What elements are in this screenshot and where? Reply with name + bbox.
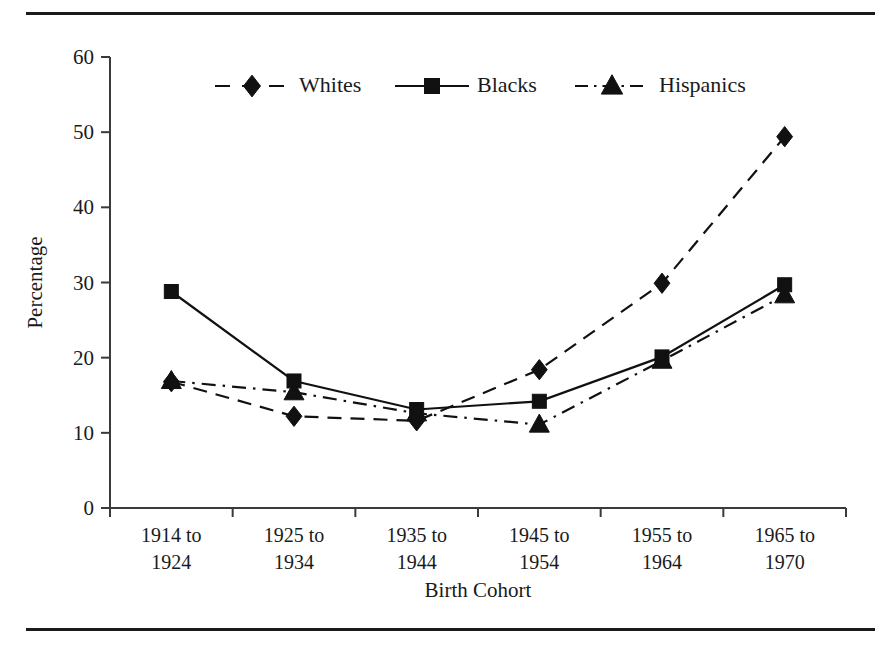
legend-item-whites[interactable]: Whites <box>215 72 361 97</box>
series-line-whites <box>171 137 784 421</box>
data-point-marker <box>161 370 181 388</box>
legend-label-whites: Whites <box>299 72 361 97</box>
legend-marker-diamond-icon <box>244 75 261 97</box>
x-tick-label: 1914 to1924 <box>141 524 202 573</box>
x-axis-title: Birth Cohort <box>425 578 532 602</box>
legend-item-hispanics[interactable]: Hispanics <box>575 72 746 97</box>
series-hispanics <box>161 285 794 432</box>
figure-container: 0102030405060 1914 to19241925 to19341935… <box>0 0 881 651</box>
legend-marker-triangle-icon <box>601 75 622 94</box>
legend-marker-square-icon <box>425 79 440 94</box>
y-axis-ticks: 0102030405060 <box>73 45 110 520</box>
y-tick-label: 60 <box>73 45 94 69</box>
series-line-blacks <box>171 285 784 410</box>
y-tick-label: 50 <box>73 120 94 144</box>
y-tick-label: 20 <box>73 346 94 370</box>
chart-plot-area: 0102030405060 1914 to19241925 to19341935… <box>0 0 881 651</box>
axis-spines <box>110 57 846 508</box>
line-chart: 0102030405060 1914 to19241925 to19341935… <box>0 0 881 651</box>
data-point-marker <box>164 285 178 299</box>
series-whites <box>163 127 792 431</box>
y-tick-label: 10 <box>73 421 94 445</box>
chart-legend: WhitesBlacksHispanics <box>215 72 746 97</box>
x-tick-label: 1935 to1944 <box>386 524 447 573</box>
data-point-marker <box>531 360 547 380</box>
x-tick-label: 1925 to1934 <box>264 524 325 573</box>
data-point-marker <box>532 394 546 408</box>
chart-series-group <box>161 127 794 433</box>
legend-label-blacks: Blacks <box>477 72 537 97</box>
chart-axis-titles: Birth CohortPercentage <box>23 236 532 602</box>
y-tick-label: 0 <box>84 496 95 520</box>
y-tick-label: 40 <box>73 195 94 219</box>
x-tick-label: 1945 to1954 <box>509 524 570 573</box>
chart-axes <box>110 57 846 508</box>
x-axis-ticks: 1914 to19241925 to19341935 to19441945 to… <box>110 508 846 573</box>
x-tick-label: 1965 to1970 <box>754 524 815 573</box>
data-point-marker <box>529 414 549 432</box>
series-blacks <box>164 278 791 417</box>
legend-item-blacks[interactable]: Blacks <box>395 72 537 97</box>
y-axis-title: Percentage <box>23 236 47 328</box>
legend-label-hispanics: Hispanics <box>659 72 746 97</box>
x-tick-label: 1955 to1964 <box>632 524 693 573</box>
y-tick-label: 30 <box>73 271 94 295</box>
data-point-marker <box>286 406 302 426</box>
